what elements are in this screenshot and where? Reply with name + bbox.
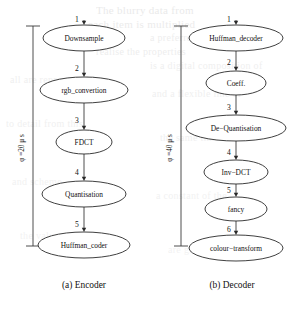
edge-decoder-2: 2 (227, 51, 238, 71)
edge-encoder-1: 1 (75, 15, 86, 25)
edge-encoder-2: 2 (75, 51, 86, 77)
node-label: colour−transform (210, 244, 262, 253)
edge-number: 5 (75, 220, 79, 229)
edge-decoder-3: 3 (227, 95, 238, 115)
node-encoder-1[interactable]: Downsample (43, 25, 125, 51)
edge-encoder-5: 5 (75, 207, 86, 232)
edge-number: 6 (227, 225, 231, 234)
edge-arrowhead (234, 156, 238, 160)
period-bracket-decoder: φ =40 μ s (166, 26, 188, 246)
edge-number: 4 (75, 168, 79, 177)
node-decoder-1[interactable]: Huffman_decoder (189, 25, 283, 51)
node-label: Inv−DCT (222, 168, 251, 177)
node-label: Coeff. (227, 79, 246, 88)
edge-encoder-3: 3 (75, 103, 86, 130)
edge-arrowhead (234, 111, 238, 115)
caption-encoder: (a) Encoder (62, 280, 107, 291)
node-label: Downsample (65, 34, 105, 43)
edge-arrowhead (82, 21, 86, 25)
node-encoder-2[interactable]: rgb_convertion (40, 77, 128, 103)
task-graph-diagram: φ =20 μ s12345Downsamplergb_convertionFD… (0, 0, 306, 314)
node-decoder-3[interactable]: De−Quantisation (186, 115, 286, 141)
edge-number: 5 (227, 186, 231, 195)
node-decoder-5[interactable]: fancy (205, 197, 267, 221)
edge-decoder-1: 1 (227, 15, 238, 25)
edge-number: 1 (227, 15, 231, 24)
edge-number: 4 (227, 148, 231, 157)
edge-number: 3 (227, 103, 231, 112)
node-label: Quantisation (65, 190, 103, 199)
edge-number: 1 (75, 15, 79, 24)
node-encoder-3[interactable]: FDCT (56, 130, 112, 154)
period-bracket-encoder: φ =20 μ s (18, 26, 40, 246)
figure-task-graphs: The blurry data fromeach item is multipl… (0, 0, 306, 314)
node-label: Huffman_coder (61, 241, 108, 250)
edge-arrowhead (234, 67, 238, 71)
edge-decoder-5: 5 (227, 184, 238, 197)
period-label-decoder: φ =40 μ s (166, 134, 174, 162)
node-label: FDCT (75, 138, 94, 147)
node-label: De−Quantisation (211, 124, 262, 133)
edge-arrowhead (82, 126, 86, 130)
edge-encoder-4: 4 (75, 154, 86, 181)
edge-arrowhead (82, 177, 86, 181)
task-graph-decoder: φ =40 μ s123456Huffman_decoderCoeff.De−Q… (166, 15, 286, 291)
node-label: rgb_convertion (61, 86, 106, 95)
edge-decoder-6: 6 (227, 221, 238, 235)
period-label-encoder: φ =20 μ s (18, 134, 26, 162)
edge-arrowhead (234, 193, 238, 197)
caption-decoder: (b) Decoder (209, 280, 255, 291)
node-decoder-2[interactable]: Coeff. (206, 71, 266, 95)
node-encoder-5[interactable]: Huffman_coder (38, 232, 130, 258)
edge-number: 3 (75, 116, 79, 125)
task-graph-encoder: φ =20 μ s12345Downsamplergb_convertionFD… (18, 15, 130, 291)
node-label: Huffman_decoder (209, 34, 263, 43)
node-decoder-4[interactable]: Inv−DCT (204, 160, 268, 184)
edge-arrowhead (82, 73, 86, 77)
edge-arrowhead (82, 228, 86, 232)
node-encoder-4[interactable]: Quantisation (42, 181, 126, 207)
node-label: fancy (228, 205, 245, 214)
edge-arrowhead (234, 21, 238, 25)
edge-number: 2 (75, 64, 79, 73)
node-decoder-6[interactable]: colour−transform (189, 235, 283, 261)
edge-number: 2 (227, 58, 231, 67)
edge-decoder-4: 4 (227, 141, 238, 160)
edge-arrowhead (234, 231, 238, 235)
